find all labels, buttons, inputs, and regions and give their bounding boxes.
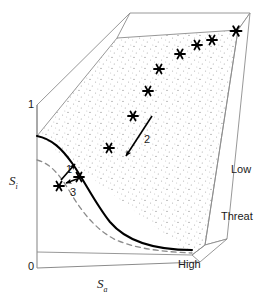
arrow-2-label: 2	[144, 134, 150, 145]
marker-asterisk-left	[54, 182, 64, 191]
diagram-canvas	[0, 0, 266, 299]
y-axis-label-subscript: i	[16, 182, 18, 191]
x-axis-line	[37, 262, 200, 268]
x-axis-label: Sa	[97, 277, 108, 294]
y-axis-label: Si	[9, 174, 18, 191]
front-face-bottom-edge	[37, 252, 192, 255]
depth-tick-high: High	[178, 259, 201, 270]
y-axis-tick-top: 1	[28, 99, 34, 110]
x-axis-label-subscript: a	[104, 285, 108, 294]
y-axis-tick-bottom: 0	[28, 261, 34, 272]
arrow-3-line	[66, 179, 77, 183]
arrow-1-label: 1	[66, 164, 72, 175]
depth-tick-low: Low	[231, 164, 251, 175]
stippled-interior-face	[37, 30, 238, 255]
figure-3d-threat-diagram: 1 0 Si Sa Low Threat High 1 2 3	[0, 0, 266, 299]
arrow-3-label: 3	[70, 187, 76, 198]
depth-axis-label: Threat	[221, 211, 253, 222]
